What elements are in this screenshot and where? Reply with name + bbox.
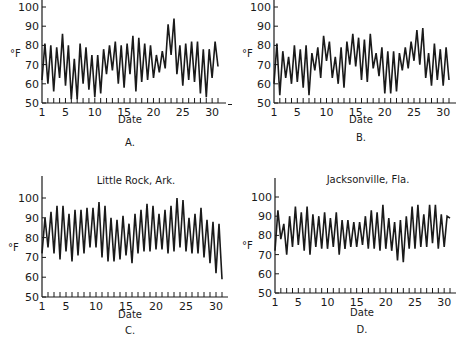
y-tick-label: 70	[257, 59, 271, 72]
chart-b-svg: °F Date B. 5060708090100151015202530	[228, 0, 456, 170]
x-tick-label: 30	[437, 296, 451, 309]
x-tick-label: 5	[62, 106, 69, 119]
y-tick-label: 90	[258, 210, 272, 223]
temperature-series-line	[42, 19, 218, 100]
panel-label: A.	[125, 137, 135, 148]
y-tick-label: 50	[258, 287, 272, 300]
y-axis-label: °F	[242, 48, 253, 59]
chart-title: Little Rock, Ark.	[97, 175, 176, 186]
chart-title: Jacksonville, Fla.	[326, 174, 410, 185]
x-tick-label: 10	[321, 296, 335, 309]
x-tick-label: 5	[294, 106, 301, 119]
y-tick-label: 70	[258, 249, 272, 262]
y-tick-label: 100	[18, 1, 39, 14]
chart-a-svg: °F Date A. 5060708090100151015202530	[0, 0, 228, 170]
temperature-series-line	[42, 198, 222, 279]
y-tick-label: 50	[25, 291, 39, 304]
y-tick-label: 90	[25, 20, 39, 33]
x-tick-label: 20	[146, 106, 160, 119]
x-tick-label: 1	[39, 300, 46, 313]
y-tick-label: 80	[25, 232, 39, 245]
y-tick-label: 100	[250, 1, 271, 14]
panel-label: D.	[357, 324, 368, 335]
chart-d-svg: Jacksonville, Fla. °F Date D. 5060708090…	[228, 170, 456, 341]
y-axis-label: °F	[10, 48, 21, 59]
x-tick-label: 15	[350, 296, 364, 309]
y-tick-label: 80	[258, 229, 272, 242]
chart-panel-d: Jacksonville, Fla. °F Date D. 5060708090…	[228, 170, 456, 341]
x-tick-label: 25	[179, 300, 193, 313]
y-tick-label: 90	[25, 212, 39, 225]
x-tick-label: 30	[209, 300, 223, 313]
y-tick-label: 70	[25, 59, 39, 72]
x-tick-label: 15	[349, 106, 363, 119]
panel-label: B.	[356, 132, 366, 143]
y-tick-label: 60	[25, 271, 39, 284]
x-tick-label: 5	[295, 296, 302, 309]
y-axis-label: °F	[8, 242, 19, 253]
temperature-series-line	[275, 205, 450, 263]
chart-c-svg: Little Rock, Ark. °F Date C. 50607080901…	[0, 170, 228, 341]
y-axis-label: °F	[242, 240, 253, 251]
y-tick-label: 60	[258, 268, 272, 281]
axis-stub	[228, 104, 232, 105]
x-tick-label: 25	[176, 106, 190, 119]
chart-panel-b: °F Date B. 5060708090100151015202530	[228, 0, 456, 170]
x-tick-label: 30	[436, 106, 450, 119]
x-tick-label: 20	[379, 296, 393, 309]
x-tick-label: 10	[88, 106, 102, 119]
y-tick-label: 100	[18, 192, 39, 205]
x-tick-label: 1	[272, 296, 279, 309]
x-tick-label: 10	[89, 300, 103, 313]
y-tick-label: 80	[257, 39, 271, 52]
x-tick-label: 10	[320, 106, 334, 119]
chart-panel-c: Little Rock, Ark. °F Date C. 50607080901…	[0, 170, 228, 341]
x-tick-label: 25	[407, 106, 421, 119]
y-tick-label: 50	[25, 97, 39, 110]
x-tick-label: 5	[63, 300, 70, 313]
chart-panel-a: °F Date A. 5060708090100151015202530	[0, 0, 228, 170]
panel-label: C.	[125, 325, 135, 336]
y-tick-label: 80	[25, 39, 39, 52]
y-tick-label: 60	[257, 78, 271, 91]
x-tick-label: 20	[149, 300, 163, 313]
y-tick-label: 90	[257, 20, 271, 33]
x-tick-label: 20	[378, 106, 392, 119]
temperature-series-line	[274, 28, 449, 95]
x-tick-label: 1	[39, 106, 46, 119]
x-tick-label: 25	[408, 296, 422, 309]
x-tick-label: 30	[205, 106, 219, 119]
x-tick-label: 15	[119, 300, 133, 313]
x-tick-label: 15	[117, 106, 131, 119]
x-tick-label: 1	[271, 106, 278, 119]
y-tick-label: 60	[25, 78, 39, 91]
y-tick-label: 50	[257, 97, 271, 110]
y-tick-label: 70	[25, 251, 39, 264]
y-tick-label: 100	[251, 191, 272, 204]
